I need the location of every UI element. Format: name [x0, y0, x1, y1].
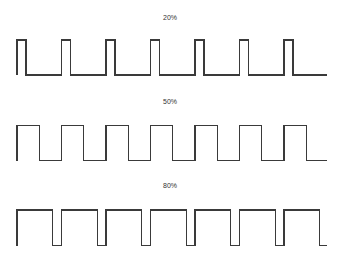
pwm-waveforms	[0, 0, 340, 261]
waveform-80-percent	[17, 210, 327, 246]
waveform-50-percent	[17, 126, 327, 161]
waveform-20-percent	[17, 40, 327, 75]
